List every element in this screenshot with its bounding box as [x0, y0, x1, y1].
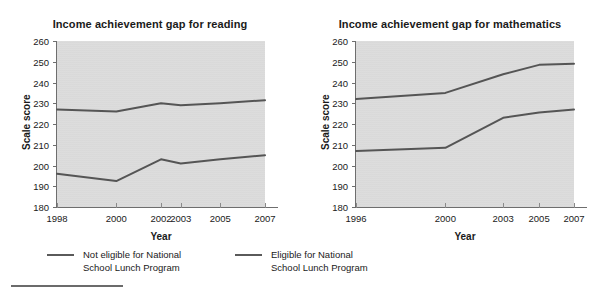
- x-tick-label: 2007: [254, 213, 275, 224]
- legend-line-swatch-icon: [47, 254, 74, 256]
- y-tick-label: 200: [324, 160, 348, 171]
- legend-line-swatch-icon: [235, 254, 262, 256]
- x-tick-label: 1996: [345, 213, 366, 224]
- x-axis-label: Year: [150, 231, 171, 242]
- y-tick-label: 250: [25, 56, 49, 67]
- legend-label-not-eligible: Not eligible for National School Lunch P…: [83, 248, 181, 274]
- legend-label-not-eligible-line2: School Lunch Program: [83, 262, 180, 273]
- x-tick-label: 2002: [150, 213, 171, 224]
- y-tick-label: 260: [324, 36, 348, 47]
- y-tick-label: 180: [324, 202, 348, 213]
- series-line-not-eligible: [356, 64, 574, 99]
- y-tick-label: 250: [324, 56, 348, 67]
- series-container: [57, 41, 265, 207]
- x-tick-label: 2000: [106, 213, 127, 224]
- plot-mathematics: 1801902002102202302402502601996200020032…: [356, 41, 574, 207]
- x-tick-label: 2005: [210, 213, 231, 224]
- chart-title-reading: Income achievement gap for reading: [0, 18, 300, 30]
- x-axis-line: [56, 207, 278, 208]
- series-line-not-eligible: [57, 100, 265, 111]
- legend-label-not-eligible-line1: Not eligible for National: [83, 249, 181, 260]
- legend-label-eligible-line2: School Lunch Program: [271, 262, 368, 273]
- chart-panel-mathematics: Income achievement gap for mathematics 1…: [300, 0, 600, 240]
- plot-reading: 1801902002102202302402502601998200020022…: [57, 41, 265, 207]
- x-tick-label: 2003: [493, 213, 514, 224]
- chart-panel-reading: Income achievement gap for reading 18019…: [0, 0, 300, 240]
- x-tick-label: 2003: [170, 213, 191, 224]
- y-tick-label: 240: [25, 77, 49, 88]
- y-tick-label: 190: [25, 181, 49, 192]
- y-axis-label: Scale score: [21, 94, 32, 150]
- x-tick-label: 2000: [435, 213, 456, 224]
- chart-title-mathematics: Income achievement gap for mathematics: [300, 18, 600, 30]
- x-tick-label: 2007: [563, 213, 584, 224]
- legend-label-eligible-line1: Eligible for National: [271, 249, 353, 260]
- y-tick-label: 260: [25, 36, 49, 47]
- x-tick-mark: [265, 203, 266, 208]
- series-container: [356, 41, 574, 207]
- y-tick-label: 180: [25, 202, 49, 213]
- legend-label-eligible: Eligible for National School Lunch Progr…: [271, 248, 368, 274]
- x-tick-label: 1998: [46, 213, 67, 224]
- x-tick-mark: [574, 203, 575, 208]
- footnote-divider: [11, 285, 123, 287]
- y-axis-label: Scale score: [320, 94, 331, 150]
- x-axis-line: [355, 207, 587, 208]
- y-tick-label: 200: [25, 160, 49, 171]
- x-tick-label: 2005: [529, 213, 550, 224]
- y-tick-label: 190: [324, 181, 348, 192]
- chart-legend: Not eligible for National School Lunch P…: [0, 248, 600, 282]
- series-line-eligible: [356, 109, 574, 151]
- x-axis-label: Year: [454, 231, 475, 242]
- y-tick-label: 240: [324, 77, 348, 88]
- series-line-eligible: [57, 155, 265, 181]
- figure-two-line-charts: Income achievement gap for reading 18019…: [0, 0, 600, 294]
